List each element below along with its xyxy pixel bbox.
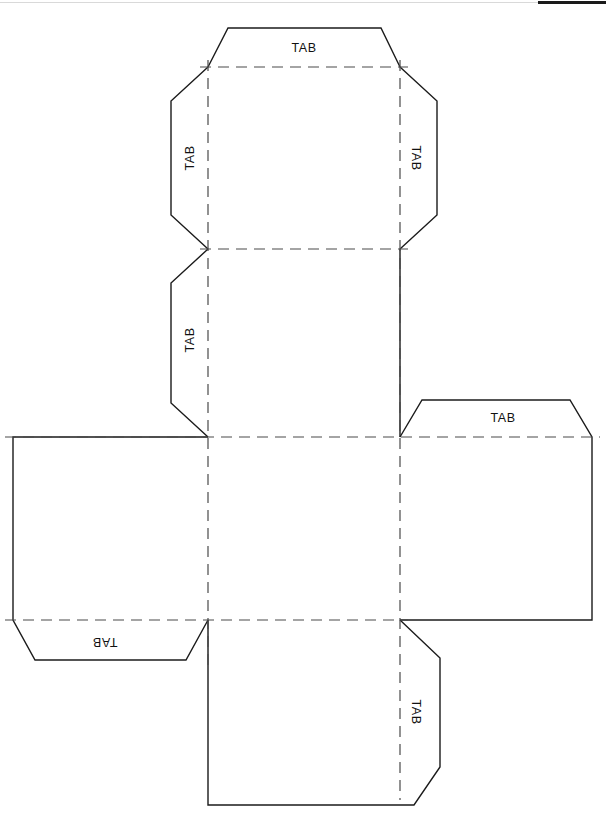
tab-label-top-left: TAB [183,145,197,170]
left-face-shape [13,437,208,660]
right-face-shape [400,400,592,620]
tab-label-left-bottom: TAB [92,635,117,649]
page-canvas: TAB TAB TAB TAB TAB TAB TAB [0,0,606,820]
cube-net-diagram: TAB TAB TAB TAB TAB TAB TAB [0,0,606,820]
bottom-face-shape [208,620,440,805]
tab-label-bottom-right: TAB [409,699,423,724]
tab-label-middle-left: TAB [183,327,197,352]
tab-label-top-right: TAB [409,145,423,170]
tab-label-right-top: TAB [490,411,515,425]
tab-label-top: TAB [291,41,316,55]
